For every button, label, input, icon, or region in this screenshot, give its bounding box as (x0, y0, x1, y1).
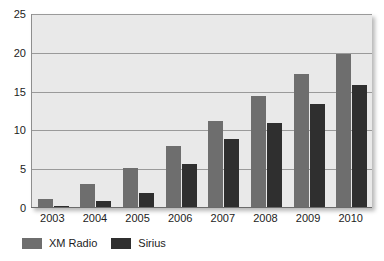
y-tick-label: 20 (3, 48, 26, 59)
bar-chart-figure: 0510152025 20032004200520062007200820092… (0, 0, 384, 261)
legend-swatch-icon (22, 238, 42, 249)
legend-entry-sirius[interactable]: Sirius (111, 238, 166, 249)
legend-label: XM Radio (49, 238, 97, 249)
legend-label: Sirius (138, 238, 166, 249)
x-tick-label-2009: 2009 (287, 211, 330, 225)
chart-legend: XM RadioSirius (22, 238, 166, 249)
legend-entry-xm-radio[interactable]: XM Radio (22, 238, 97, 249)
x-tick-label-2003: 2003 (31, 211, 74, 225)
y-tick-label: 5 (3, 164, 26, 175)
x-axis-tick-labels: 20032004200520062007200820092010 (31, 211, 372, 227)
y-tick-label: 15 (3, 87, 26, 98)
y-tick-label: 25 (3, 9, 26, 20)
y-tick-label: 10 (3, 125, 26, 136)
x-tick-label-2005: 2005 (116, 211, 159, 225)
x-tick-label-2010: 2010 (329, 211, 372, 225)
x-tick-label-2006: 2006 (159, 211, 202, 225)
y-tick-label: 0 (3, 203, 26, 214)
x-tick-label-2007: 2007 (202, 211, 245, 225)
legend-swatch-icon (111, 238, 131, 249)
x-tick-label-2004: 2004 (74, 211, 117, 225)
x-tick-label-2008: 2008 (244, 211, 287, 225)
